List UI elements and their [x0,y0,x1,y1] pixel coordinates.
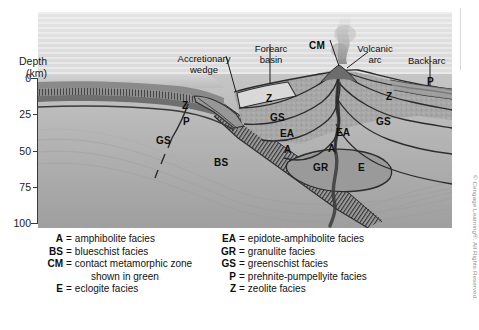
annotation-forearc-basin-line2: basin [244,55,298,66]
facies-label-gr-root: GR [313,162,328,173]
facies-label-z-left: Z [182,100,188,111]
facies-label-p-backarc: P [427,76,434,87]
cross-section-panel: Z P GS BS Z GS EA A GR EA A E Z GS P Acc… [38,12,452,228]
annotation-forearc-basin-line1: Forearc [244,44,298,55]
legend-column-right: EA = epidote-amphibolite facies GR = gra… [216,233,431,296]
depth-label-50: 50 [19,145,31,157]
legend-text-bs: blueschist facies [75,246,216,259]
legend-equals-gs: = [239,258,245,271]
legend-equals-gr: = [239,246,245,259]
legend-symbol-p: P [216,271,236,284]
depth-axis-title-line1: Depth [3,56,47,68]
depth-tick-100 [31,223,38,224]
annotation-accretionary-wedge-line2: wedge [156,65,252,76]
legend-equals-p: = [239,271,245,284]
depth-label-25: 25 [19,108,31,120]
legend-equals-bs: = [66,246,72,259]
annotation-volcanic-arc: Volcanic arc [348,44,402,65]
legend-item-gr: GR = granulite facies [216,246,431,259]
legend-symbol-e: E [41,283,63,296]
legend-equals-z: = [239,283,245,296]
facies-label-z-backarc: Z [386,91,392,102]
facies-label-ea-forearc: EA [280,128,294,139]
legend-item-gs: GS = greenschist facies [216,258,431,271]
legend-text-ea: epidote-amphibolite facies [248,233,431,246]
annotation-cm-callout: CM [309,40,325,51]
facies-label-a-backarc: A [328,143,335,154]
depth-tick-50 [33,151,38,152]
facies-label-p-left: P [183,116,190,127]
depth-label-75: 75 [19,181,31,193]
legend-item-bs: BS = blueschist facies [41,246,216,259]
depth-label-0: 0 [25,72,31,84]
depth-tick-25 [33,114,38,115]
legend-equals-a: = [66,233,72,246]
legend-item-a: A = amphibolite facies [41,233,216,246]
depth-axis: 0 25 50 75 100 [14,78,38,224]
facies-label-gs-backarc: GS [376,116,391,127]
facies-label-bs-slab: BS [214,157,228,168]
legend-equals-ea: = [239,233,245,246]
annotation-back-arc: Back-arc [408,56,445,67]
credit-container: © Cengage Learning®. All Rights Reserved… [459,148,473,324]
facies-label-ea-backarc: EA [336,127,350,138]
annotation-forearc-basin: Forearc basin [244,44,298,65]
legend-symbol-bs: BS [41,246,63,259]
depth-label-100: 100 [13,217,31,229]
annotation-volcanic-arc-line1: Volcanic [348,44,402,55]
legend-symbol-z: Z [216,283,236,296]
annotation-accretionary-wedge: Accretionary wedge [156,54,252,75]
facies-label-a-forearc: A [284,144,291,155]
annotation-volcanic-arc-line2: arc [348,55,402,66]
depth-tick-75 [33,187,38,188]
legend-item-z: Z = zeolite facies [216,283,431,296]
legend-item-p: P = prehnite-pumpellyite facies [216,271,431,284]
depth-tick-0 [31,78,38,79]
legend-item-ea: EA = epidote-amphibolite facies [216,233,431,246]
legend-text-e: eclogite facies [75,283,216,296]
legend-equals-e: = [66,283,72,296]
legend-text-gs: greenschist facies [248,258,431,271]
legend-column-left: A = amphibolite facies BS = blueschist f… [41,233,216,296]
legend-symbol-a: A [41,233,63,246]
panel-edge-rule [460,8,461,70]
legend-item-e: E = eclogite facies [41,283,216,296]
annotation-accretionary-wedge-line1: Accretionary [156,54,252,65]
legend-equals-cm: = [66,258,72,271]
legend-symbol-ea: EA [216,233,236,246]
legend-symbol-cm: CM [41,258,63,271]
facies-label-e-backarc: E [358,162,365,173]
legend-text-z: zeolite facies [248,283,431,296]
legend-text-cm-continued: shown in green [41,271,216,284]
legend-text-a: amphibolite facies [75,233,216,246]
legend-item-cm: CM = contact metamorphic zone [41,258,216,271]
facies-label-gs-forearc: GS [270,112,285,123]
legend-text-p: prehnite-pumpellyite facies [248,271,431,284]
legend-text-gr: granulite facies [248,246,431,259]
facies-label-z-forearc: Z [266,93,272,104]
legend-text-cm: contact metamorphic zone [75,258,216,271]
legend-symbol-gs: GS [216,258,236,271]
facies-label-gs-left: GS [156,135,171,146]
legend-symbol-gr: GR [216,246,236,259]
copyright-credit: © Cengage Learning®. All Rights Reserved… [472,175,479,300]
